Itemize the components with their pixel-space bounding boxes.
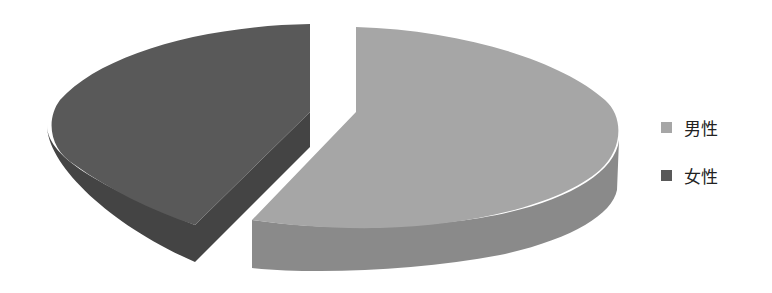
legend-item-male[interactable]: 男性 bbox=[661, 114, 718, 140]
legend-swatch-female bbox=[661, 170, 672, 181]
legend-item-female[interactable]: 女性 bbox=[661, 162, 718, 188]
legend-swatch-male bbox=[661, 122, 672, 133]
legend-label-female: 女性 bbox=[684, 163, 718, 188]
pie-chart bbox=[0, 0, 640, 293]
legend-label-male: 男性 bbox=[684, 115, 718, 140]
legend: 男性 女性 bbox=[661, 114, 718, 210]
